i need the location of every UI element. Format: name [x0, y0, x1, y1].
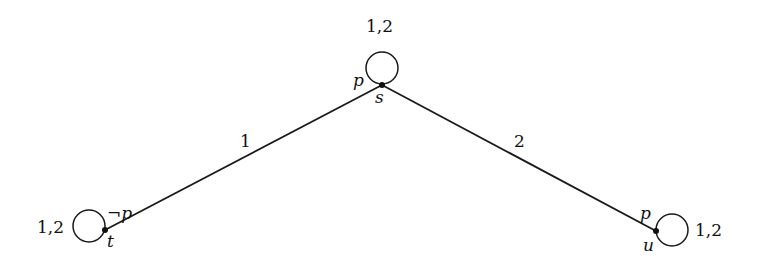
prop-label-s: p — [353, 70, 364, 90]
node-t: 1,2 ¬p t — [37, 203, 132, 251]
name-label-s: s — [375, 87, 384, 107]
reflexive-loop-u — [656, 214, 688, 246]
loop-label-s: 1,2 — [366, 16, 393, 36]
reflexive-loop-s — [366, 52, 398, 84]
name-label-u: u — [643, 235, 654, 255]
edge-label-2: 2 — [514, 131, 525, 151]
loop-label-t: 1,2 — [37, 217, 64, 237]
reflexive-loop-t — [73, 210, 105, 242]
prop-label-t: ¬p — [107, 203, 132, 223]
node-dot-u — [653, 228, 659, 234]
prop-label-u: p — [640, 203, 651, 223]
kripke-diagram: 1 2 1,2 p s 1,2 ¬p t 1,2 p u — [0, 0, 758, 263]
edge-t-s — [105, 85, 382, 230]
loop-label-u: 1,2 — [695, 220, 722, 240]
edge-s-u — [382, 85, 656, 231]
name-label-t: t — [107, 231, 114, 251]
node-s: 1,2 p s — [353, 16, 398, 107]
edge-label-1: 1 — [240, 131, 251, 151]
